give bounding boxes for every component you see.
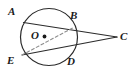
chord-line-eb-dashed [22, 28, 74, 56]
geometry-canvas [0, 0, 132, 73]
point-label-d: D [67, 56, 75, 67]
center-point-dot [43, 35, 47, 39]
geometry-figure: A B C D E O [0, 0, 132, 73]
point-label-c: C [120, 31, 127, 42]
point-label-a: A [8, 6, 15, 17]
center-label-o: O [31, 30, 39, 41]
point-label-b: B [70, 10, 77, 21]
point-label-e: E [7, 55, 14, 66]
